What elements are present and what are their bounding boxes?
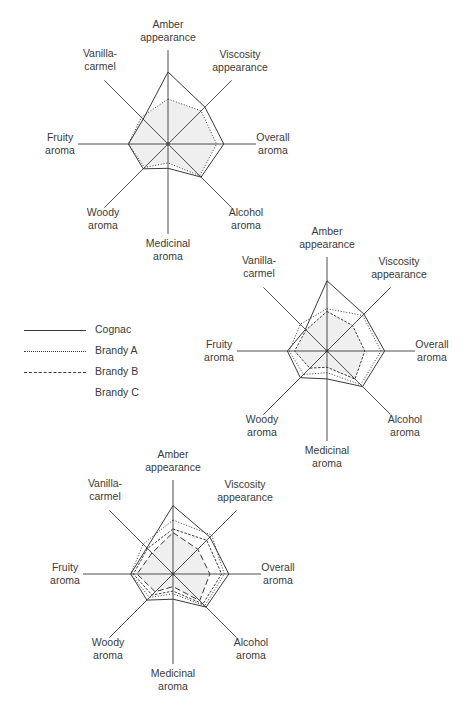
axis-label-fruity-aroma: Fruityaroma <box>50 561 80 586</box>
figure: AmberappearanceViscosityappearanceOveral… <box>0 0 476 706</box>
dotted-line-icon <box>24 351 86 352</box>
axis-label-alcohol-aroma: Alcoholaroma <box>388 413 422 438</box>
axis-label-alcohol-aroma: Alcoholaroma <box>229 206 263 231</box>
axis-label-viscosity-appearance: Viscosityappearance <box>371 255 427 280</box>
axis-label-medicinal-aroma: Medicinalaroma <box>305 444 349 469</box>
solid-line-icon <box>24 330 86 331</box>
axis-label-overall-aroma: Overallaroma <box>261 561 294 586</box>
legend-label: Brandy C <box>95 386 139 398</box>
legend-item-brandy-c: Brandy C <box>24 385 174 406</box>
axis-label-woody-aroma: Woodyaroma <box>92 636 125 661</box>
center-point <box>167 143 170 146</box>
axis-label-fruity-aroma: Fruityaroma <box>45 131 75 156</box>
axis-label-woody-aroma: Woodyaroma <box>87 206 120 231</box>
legend-label: Brandy B <box>95 365 138 377</box>
axis-label-alcohol-aroma: Alcoholaroma <box>234 636 268 661</box>
axis-label-fruity-aroma: Fruityaroma <box>204 338 234 363</box>
axis-label-medicinal-aroma: Medicinalaroma <box>146 237 190 262</box>
center-point <box>172 573 175 576</box>
short-dash-line-icon <box>24 372 86 373</box>
axis-label-amber-appearance: Amberappearance <box>299 225 355 250</box>
axis-label-overall-aroma: Overallaroma <box>415 338 448 363</box>
axis-label-overall-aroma: Overallaroma <box>256 131 289 156</box>
legend-item-cognac: Cognac <box>24 322 174 343</box>
radar-chart-2: AmberappearanceViscosityappearanceOveral… <box>204 225 449 469</box>
axis-label-medicinal-aroma: Medicinalaroma <box>151 667 195 692</box>
axis-label-vanilla-carmel: Vanilla-carmel <box>83 47 118 72</box>
legend-item-brandy-a: Brandy A <box>24 343 174 364</box>
axis-label-woody-aroma: Woodyaroma <box>246 413 279 438</box>
axis-label-viscosity-appearance: Viscosityappearance <box>217 478 273 503</box>
radar-chart-3: AmberappearanceViscosityappearanceOveral… <box>50 448 295 692</box>
legend: Cognac Brandy A Brandy B Brandy C <box>24 322 174 406</box>
legend-label: Cognac <box>95 323 131 335</box>
center-point <box>326 350 329 353</box>
axis-label-vanilla-carmel: Vanilla-carmel <box>88 477 123 502</box>
radar-chart-1: AmberappearanceViscosityappearanceOveral… <box>45 18 290 262</box>
axis-label-amber-appearance: Amberappearance <box>145 448 201 473</box>
axis-label-vanilla-carmel: Vanilla-carmel <box>242 254 277 279</box>
legend-label: Brandy A <box>95 344 138 356</box>
axis-label-amber-appearance: Amberappearance <box>140 18 196 43</box>
legend-item-brandy-b: Brandy B <box>24 364 174 385</box>
axis-label-viscosity-appearance: Viscosityappearance <box>212 48 268 73</box>
